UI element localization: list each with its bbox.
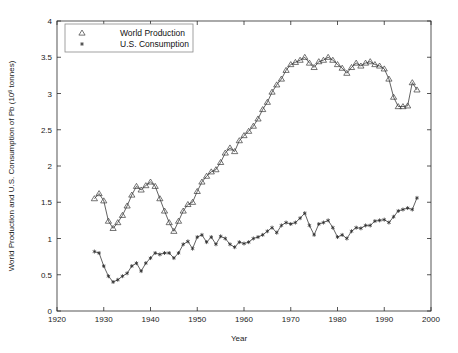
y-tick-label: 3 [48, 90, 53, 99]
x-tick-label: 1940 [142, 315, 160, 324]
x-tick-label: 1920 [48, 315, 66, 324]
x-axis-label: Year [231, 334, 248, 343]
data-series-group [91, 54, 420, 284]
x-tick-label: 1930 [95, 315, 113, 324]
x-tick-label: 1990 [375, 315, 393, 324]
y-tick-label: 3.5 [41, 53, 53, 62]
series-world-production [91, 54, 420, 233]
y-tick-label: 2.5 [41, 126, 53, 135]
star-marker [102, 264, 105, 268]
y-tick-label: 4 [48, 17, 53, 26]
star-marker [181, 242, 184, 246]
legend-label: U.S. Consumption [120, 39, 189, 49]
x-tick-label: 1950 [188, 315, 206, 324]
series-line [94, 57, 417, 231]
star-marker [308, 223, 311, 227]
y-tick-label: 1 [48, 235, 53, 244]
star-marker [196, 235, 199, 239]
x-tick-label: 2000 [422, 315, 440, 324]
y-axis-label: World Production and U.S. Consumption of… [7, 60, 17, 271]
legend-label: World Production [120, 28, 185, 38]
y-axis-tick-labels: 00.511.522.533.54 [41, 17, 53, 316]
x-axis-tick-labels: 192019301940195019601970198019902000 [48, 315, 440, 324]
star-marker [336, 235, 339, 239]
x-tick-label: 1980 [329, 315, 347, 324]
y-tick-label: 0 [48, 307, 53, 316]
y-tick-label: 1.5 [41, 198, 53, 207]
chart-legend: World ProductionU.S. Consumption [65, 24, 193, 52]
series-us-consumption [93, 196, 419, 284]
y-tick-label: 0.5 [41, 271, 53, 280]
lead-production-consumption-chart: 192019301940195019601970198019902000 00.… [0, 0, 458, 353]
x-tick-label: 1960 [235, 315, 253, 324]
star-marker [312, 233, 315, 237]
y-tick-label: 2 [48, 162, 53, 171]
series-line [94, 198, 417, 282]
chart-figure: 192019301940195019601970198019902000 00.… [0, 0, 458, 353]
star-marker [415, 196, 418, 200]
x-tick-label: 1970 [282, 315, 300, 324]
